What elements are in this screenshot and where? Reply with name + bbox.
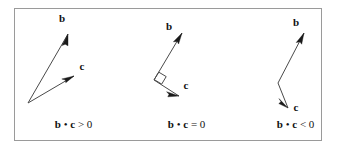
dot-product-figure: b c b • c > 0 b c b • c = 0 b c — [0, 0, 341, 151]
caption-value-perpendicular: 0 — [200, 118, 206, 130]
caption-perpendicular: b • c = 0 — [143, 118, 225, 130]
vector-b-arrowhead-perpendicular — [173, 33, 182, 44]
panel-acute: b c b • c > 0 — [28, 12, 112, 130]
vector-b-shaft-acute — [28, 34, 68, 103]
figure-canvas: b c b • c > 0 b c b • c = 0 b c — [0, 0, 341, 151]
vector-label-c-obtuse: c — [294, 101, 299, 113]
caption-value-obtuse: 0 — [309, 118, 315, 130]
panel-perpendicular: b c b • c = 0 — [143, 20, 225, 130]
vector-label-b-perpendicular: b — [166, 20, 172, 32]
caption-obtuse: b • c < 0 — [252, 118, 334, 130]
vector-label-c-perpendicular: c — [184, 79, 189, 91]
vector-label-c-acute: c — [80, 60, 85, 72]
vector-label-b-acute: b — [59, 12, 65, 24]
vector-c-shaft-perpendicular — [154, 80, 179, 96]
vector-label-b-obtuse: b — [293, 16, 299, 28]
right-angle-marker — [154, 72, 166, 84]
vector-b-arrowhead-obtuse — [296, 33, 304, 44]
vector-b-arrowhead-acute — [62, 34, 68, 46]
caption-value-acute: 0 — [87, 118, 93, 130]
caption-acute: b • c > 0 — [30, 118, 112, 130]
